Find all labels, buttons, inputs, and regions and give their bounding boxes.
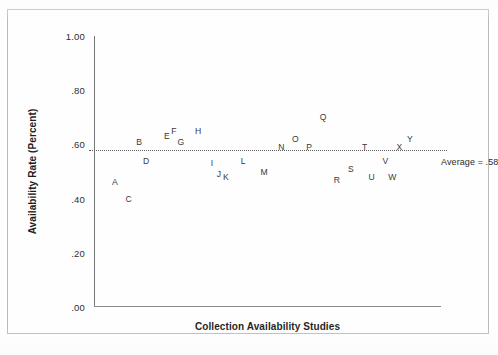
data-point-s: S — [348, 164, 354, 174]
chart-frame: Availability Rate (Percent) 1.00.80.60.4… — [7, 9, 489, 334]
data-point-q: Q — [320, 112, 327, 122]
data-point-x: X — [396, 142, 402, 152]
y-tick-label: .60 — [71, 139, 85, 150]
plot-area: 1.00.80.60.40.20.00 ABCDEFGHIJKLMNOPQRST… — [94, 36, 441, 307]
y-tick-label: .20 — [71, 247, 85, 258]
average-annotation: Average = .58 — [441, 157, 498, 167]
data-point-j: J — [217, 169, 221, 179]
data-point-r: R — [334, 175, 340, 185]
average-reference-line — [89, 150, 447, 151]
data-point-g: G — [177, 137, 184, 147]
y-tick-label: 1.00 — [66, 31, 85, 42]
data-point-p: P — [306, 142, 312, 152]
y-tick-label: .40 — [71, 193, 85, 204]
y-axis-title: Availability Rate (Percent) — [24, 36, 42, 307]
y-tick-label: .00 — [71, 302, 85, 313]
x-axis-title: Collection Availability Studies — [94, 321, 441, 332]
data-point-c: C — [126, 194, 132, 204]
data-point-w: W — [388, 172, 396, 182]
data-point-l: L — [241, 156, 246, 166]
data-point-n: N — [278, 142, 284, 152]
x-axis-line — [94, 306, 441, 307]
data-point-k: K — [223, 172, 229, 182]
data-point-t: T — [362, 142, 367, 152]
data-point-e: E — [164, 131, 170, 141]
data-point-v: V — [383, 156, 389, 166]
data-point-y: Y — [407, 134, 413, 144]
data-point-d: D — [143, 156, 149, 166]
data-point-i: I — [211, 158, 213, 168]
data-point-o: O — [292, 134, 299, 144]
y-axis-line — [94, 36, 95, 307]
y-tick-label: .80 — [71, 85, 85, 96]
data-point-b: B — [136, 137, 142, 147]
data-point-a: A — [112, 177, 118, 187]
data-point-f: F — [171, 126, 176, 136]
data-point-h: H — [195, 126, 201, 136]
data-point-m: M — [260, 167, 267, 177]
data-point-u: U — [368, 172, 374, 182]
